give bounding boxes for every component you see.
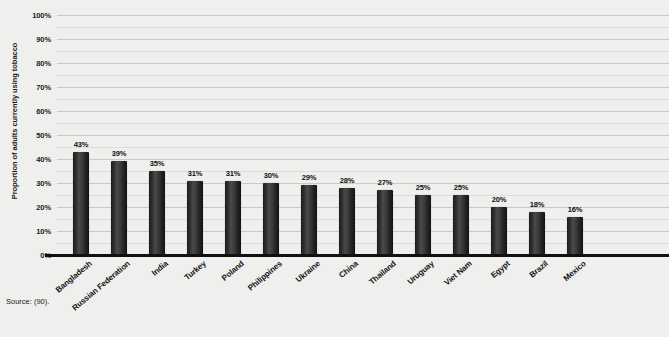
bar-value-label: 18% (530, 200, 545, 209)
bar (111, 161, 127, 255)
x-tick-label: Viet Nam (442, 259, 473, 287)
bar-group: 20% (480, 15, 518, 255)
bar-group: 29% (290, 15, 328, 255)
chart-figure: Proportion of adults currently using tob… (0, 0, 669, 337)
x-axis-baseline (45, 254, 669, 257)
bar (149, 171, 165, 255)
bar-group: 25% (442, 15, 480, 255)
source-note: Source: (90). (6, 297, 49, 306)
bar-group: 35% (138, 15, 176, 255)
y-tick-label-60: 60% (36, 107, 51, 116)
bar-value-label: 16% (568, 205, 583, 214)
x-tick-label: India (150, 259, 170, 278)
x-tick-label: Bangladesh (54, 259, 94, 294)
bar (263, 183, 279, 255)
x-tick-label: Mexico (562, 259, 588, 283)
x-tick-label: Brazil (528, 259, 550, 280)
x-tick-label: Uruguay (406, 259, 436, 286)
bar (73, 152, 89, 255)
y-tick-label-40: 40% (36, 155, 51, 164)
bar (187, 181, 203, 255)
bar-value-label: 39% (112, 149, 127, 158)
x-tick-label: Turkey (183, 259, 208, 282)
plot-area: 0%10%20%30%40%50%60%70%80%90%100% 43%39%… (57, 15, 669, 255)
bar (491, 207, 507, 255)
bar-value-label: 30% (264, 171, 279, 180)
y-tick-label-50: 50% (36, 131, 51, 140)
bar-group: 25% (404, 15, 442, 255)
bar-value-label: 25% (454, 183, 469, 192)
bar-value-label: 31% (188, 169, 203, 178)
x-tick-label: Ukraine (294, 259, 322, 284)
bar-value-label: 20% (492, 195, 507, 204)
x-tick-label: Egypt (489, 259, 511, 280)
bar-group: 43% (62, 15, 100, 255)
y-tick-label-80: 80% (36, 59, 51, 68)
bar-group: 31% (214, 15, 252, 255)
y-axis-title: Proportion of adults currently using tob… (8, 1, 22, 241)
bar-group: 30% (252, 15, 290, 255)
bar (301, 185, 317, 255)
x-tick-label: Thailand (367, 259, 397, 287)
bar-group: 18% (518, 15, 556, 255)
bar-value-label: 31% (226, 169, 241, 178)
bar-value-label: 27% (378, 178, 393, 187)
y-tick-label-100: 100% (32, 11, 51, 20)
bar-group: 27% (366, 15, 404, 255)
bar-value-label: 43% (74, 140, 89, 149)
bar-series: 43%39%35%31%31%30%29%28%27%25%25%20%18%1… (57, 15, 669, 255)
bar-group: 28% (328, 15, 366, 255)
y-tick-label-20: 20% (36, 203, 51, 212)
y-tick-label-10: 10% (36, 227, 51, 236)
bar (339, 188, 355, 255)
y-tick-label-70: 70% (36, 83, 51, 92)
x-tick-label: Philippines (246, 259, 284, 293)
bar (453, 195, 469, 255)
bar (225, 181, 241, 255)
bar-value-label: 28% (340, 176, 355, 185)
bar-value-label: 29% (302, 173, 317, 182)
bar-group: 31% (176, 15, 214, 255)
y-tick-label-30: 30% (36, 179, 51, 188)
x-tick-label: Poland (220, 259, 246, 283)
bar-group: 39% (100, 15, 138, 255)
bar (415, 195, 431, 255)
bar (529, 212, 545, 255)
bar (377, 190, 393, 255)
bar-group: 16% (556, 15, 594, 255)
y-tick-label-90: 90% (36, 35, 51, 44)
x-tick-label: China (337, 259, 359, 280)
bar (567, 217, 583, 255)
bar-value-label: 35% (150, 159, 165, 168)
bar-value-label: 25% (416, 183, 431, 192)
